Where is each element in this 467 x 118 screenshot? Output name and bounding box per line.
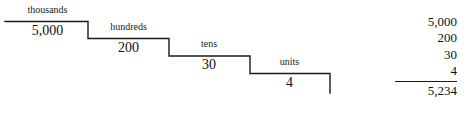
sum-addend-thousands: 5,000 xyxy=(395,14,457,30)
sum-rule-divider xyxy=(395,81,457,82)
place-value-staircase-figure: thousands 5,000 hundreds 200 tens 30 uni… xyxy=(0,0,467,118)
sum-total: 5,234 xyxy=(395,83,457,99)
step-value-tens: 30 xyxy=(168,58,250,72)
sum-column: 5,000 200 30 4 5,234 xyxy=(395,14,457,99)
step-label-units: units xyxy=(249,57,330,67)
sum-addend-units: 4 xyxy=(395,63,457,79)
step-value-thousands: 5,000 xyxy=(5,24,90,38)
step-label-hundreds: hundreds xyxy=(88,22,169,32)
step-label-thousands: thousands xyxy=(5,5,90,15)
step-label-tens: tens xyxy=(168,39,250,49)
sum-addend-hundreds: 200 xyxy=(395,30,457,46)
sum-addend-tens: 30 xyxy=(395,47,457,63)
step-value-hundreds: 200 xyxy=(88,41,169,55)
step-value-units: 4 xyxy=(249,76,330,90)
